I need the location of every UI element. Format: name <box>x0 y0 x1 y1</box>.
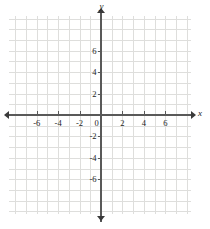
x-axis-tick-label: -6 <box>33 119 40 128</box>
y-axis-down-arrow-icon <box>97 216 105 221</box>
x-axis-tick-label: 2 <box>120 119 124 128</box>
y-axis-tick-label: 2 <box>92 89 96 98</box>
y-axis-tick <box>98 72 101 73</box>
y-axis-tick <box>98 94 101 95</box>
y-axis-tick-label: 4 <box>92 68 96 77</box>
x-axis-right-arrow-icon <box>191 111 196 119</box>
x-axis-tick <box>122 111 123 114</box>
x-axis-tick-label: -2 <box>76 119 83 128</box>
x-axis-tick-label: 6 <box>163 119 167 128</box>
y-axis-label: y <box>100 2 104 11</box>
y-axis-tick <box>98 158 101 159</box>
x-axis-tick-label: 4 <box>142 119 146 128</box>
x-axis-left-arrow-icon <box>4 111 9 119</box>
x-axis-tick <box>144 111 145 114</box>
x-axis-tick <box>58 111 59 114</box>
y-axis-tick-label: 6 <box>92 46 96 55</box>
y-axis-tick-label: -4 <box>89 154 96 163</box>
x-axis-tick <box>37 111 38 114</box>
coordinate-plane: -6-4-2246642-2-4-6 0 x y <box>0 0 210 229</box>
y-axis-tick <box>98 51 101 52</box>
y-axis-tick <box>98 136 101 137</box>
x-axis-tick <box>80 111 81 114</box>
origin-label: 0 <box>94 119 98 128</box>
x-axis-label: x <box>198 109 202 118</box>
y-axis-tick <box>98 179 101 180</box>
x-axis-tick <box>165 111 166 114</box>
y-axis-tick-label: -6 <box>89 175 96 184</box>
x-axis-tick-label: -4 <box>55 119 62 128</box>
y-axis-tick-label: -2 <box>89 132 96 141</box>
y-axis-line <box>100 13 102 222</box>
